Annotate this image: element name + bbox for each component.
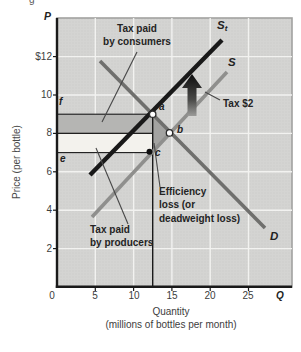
demand-label: D bbox=[270, 231, 278, 242]
y-axis-title: Price (per bottle) bbox=[11, 125, 22, 199]
supply-after-tax-label: St bbox=[217, 20, 227, 34]
point-c-dot bbox=[147, 149, 153, 155]
cropped-caption-fragment: g bbox=[29, 0, 35, 5]
x-tick-10: 10 bbox=[124, 291, 144, 301]
y-tick-12: $12 bbox=[26, 52, 52, 62]
efficiency-loss-line3: deadweight loss) bbox=[159, 212, 240, 225]
x-axis-subtitle: (millions of bottles per month) bbox=[71, 320, 271, 330]
x-tick-0: 0 bbox=[42, 291, 62, 301]
consumers-annotation: Tax paid by consumers bbox=[94, 22, 180, 49]
efficiency-loss-annotation: Efficiency loss (or deadweight loss) bbox=[159, 185, 240, 225]
point-b-dot bbox=[166, 130, 172, 136]
x-tick-20: 20 bbox=[200, 291, 220, 301]
point-e-label: e bbox=[60, 154, 66, 164]
efficiency-loss-line1: Efficiency bbox=[159, 185, 240, 198]
x-tick-15: 15 bbox=[162, 291, 182, 301]
supply-after-tax-label-sub: t bbox=[225, 24, 228, 33]
y-tick-4: 4 bbox=[26, 205, 52, 215]
producers-tax-region bbox=[57, 133, 153, 152]
point-b-label: b bbox=[177, 125, 183, 135]
point-c-label: c bbox=[155, 148, 161, 158]
x-tick-25: 25 bbox=[238, 291, 258, 301]
x-axis-symbol: Q bbox=[276, 291, 284, 301]
consumers-annotation-line2: by consumers bbox=[94, 35, 180, 48]
x-tick-5: 5 bbox=[85, 291, 105, 301]
supply-label: S bbox=[228, 57, 236, 68]
y-tick-10: 10 bbox=[26, 90, 52, 100]
y-tick-2: 2 bbox=[26, 244, 52, 254]
y-tick-6: 6 bbox=[26, 167, 52, 177]
x-axis-title: Quantity bbox=[121, 307, 221, 317]
y-axis-symbol: P bbox=[44, 11, 51, 21]
tax-incidence-figure: g P Q $12 10 8 6 4 2 0 5 10 15 20 25 St … bbox=[0, 0, 301, 352]
supply-after-tax-label-main: S bbox=[217, 19, 225, 31]
producers-annotation-line2: by producers bbox=[90, 236, 153, 249]
point-a-dot bbox=[150, 111, 156, 117]
point-a-label: a bbox=[159, 102, 165, 112]
point-f-label: f bbox=[59, 97, 62, 107]
efficiency-loss-line2: loss (or bbox=[159, 198, 240, 211]
producers-annotation: Tax paid by producers bbox=[90, 223, 153, 250]
consumers-annotation-line1: Tax paid bbox=[94, 22, 180, 35]
producers-annotation-line1: Tax paid bbox=[90, 223, 153, 236]
tax-amount-label: Tax $2 bbox=[223, 97, 253, 110]
y-tick-8: 8 bbox=[26, 128, 52, 138]
